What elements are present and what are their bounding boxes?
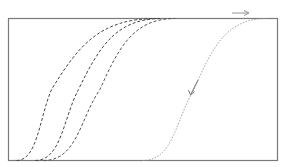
reverse-curve [143,19,267,161]
diagram [0,0,298,167]
reverse-arrow-icon [189,80,199,95]
forward-curve-2 [35,19,161,161]
diagram-frame [9,19,278,161]
curves-group [17,19,267,161]
forward-arrow-icon [232,11,249,16]
forward-curve-1 [17,19,157,161]
